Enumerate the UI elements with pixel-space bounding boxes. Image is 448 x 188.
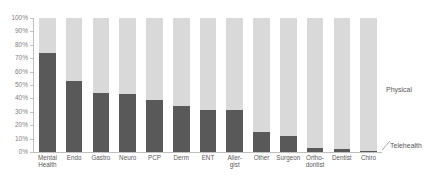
bar-slot [168, 18, 195, 152]
y-axis-tick-mark [30, 139, 33, 140]
bar-segment-telehealth [226, 110, 243, 152]
y-axis-tick-label: 100% [0, 15, 28, 22]
bar-slot [248, 18, 275, 152]
y-axis-tick-mark [30, 45, 33, 46]
bar-segment-physical [226, 18, 243, 110]
stacked-bar [93, 18, 110, 152]
bar-slot [61, 18, 88, 152]
bar-slot [355, 18, 382, 152]
y-axis-tick-label: 10% [0, 135, 28, 142]
stacked-bar [360, 18, 377, 152]
x-axis-tick-label: PCP [141, 154, 168, 184]
bar-segment-physical [307, 18, 324, 148]
bar-segment-telehealth [146, 100, 163, 152]
bar-slot [302, 18, 329, 152]
stacked-bar [39, 18, 56, 152]
x-axis-labels: MentalHealthEndoGastroNeuroPCPDermENTAll… [34, 154, 382, 184]
x-axis-tick-label: Neuro [114, 154, 141, 184]
stacked-bar [146, 18, 163, 152]
bar-slot [114, 18, 141, 152]
y-axis-tick-label: 0% [0, 149, 28, 156]
y-axis-tick-label: 90% [0, 28, 28, 35]
y-axis-labels: 0%10%20%30%40%50%60%70%80%90%100% [0, 0, 31, 152]
bar-segment-telehealth [173, 106, 190, 152]
bar-segment-telehealth [66, 81, 83, 152]
bar-segment-physical [253, 18, 270, 132]
stacked-bar [280, 18, 297, 152]
bar-slot [328, 18, 355, 152]
stacked-bar [200, 18, 217, 152]
y-axis-tick-label: 80% [0, 42, 28, 49]
x-axis-line [33, 152, 382, 153]
x-axis-tick-label: Dentist [328, 154, 355, 184]
x-axis-tick-label: Gastro [88, 154, 115, 184]
x-axis-tick-label: Aller-gist [221, 154, 248, 184]
bar-segment-telehealth [307, 148, 324, 152]
bar-segment-physical [360, 18, 377, 151]
y-axis-tick-label: 70% [0, 55, 28, 62]
stacked-bar [119, 18, 136, 152]
x-axis-tick-label: Ortho-dontist [302, 154, 329, 184]
x-axis-tick-label: Endo [61, 154, 88, 184]
bar-segment-physical [39, 18, 56, 53]
bar-segment-telehealth [360, 151, 377, 152]
bar-segment-physical [66, 18, 83, 81]
bar-segment-telehealth [253, 132, 270, 152]
bar-segment-telehealth [93, 93, 110, 152]
y-axis-tick-mark [30, 112, 33, 113]
stacked-bar [307, 18, 324, 152]
bar-segment-telehealth [280, 136, 297, 152]
bar-slot [34, 18, 61, 152]
bar-segment-physical [146, 18, 163, 100]
x-axis-tick-label: MentalHealth [34, 154, 61, 184]
bar-segment-physical [280, 18, 297, 136]
y-axis-tick-label: 20% [0, 122, 28, 129]
x-axis-tick-label: Derm [168, 154, 195, 184]
bar-slot [88, 18, 115, 152]
y-axis-tick-mark [30, 85, 33, 86]
bar-slot [141, 18, 168, 152]
bar-slot [195, 18, 222, 152]
bar-segment-physical [334, 18, 351, 149]
x-axis-tick-label: Surgeon [275, 154, 302, 184]
y-axis-tick-mark [30, 31, 33, 32]
bar-segment-telehealth [119, 94, 136, 152]
y-axis-tick-mark [30, 98, 33, 99]
x-axis-tick-label: ENT [195, 154, 222, 184]
y-axis-tick-label: 40% [0, 95, 28, 102]
stacked-bar [66, 18, 83, 152]
x-axis-tick-label: Chiro [355, 154, 382, 184]
series-label-telehealth: Telehealth [390, 142, 422, 149]
y-axis-tick-label: 50% [0, 82, 28, 89]
bar-segment-telehealth [39, 53, 56, 152]
stacked-bar [334, 18, 351, 152]
bar-segment-physical [200, 18, 217, 110]
bar-segment-physical [93, 18, 110, 93]
bar-slot [221, 18, 248, 152]
y-axis-tick-mark [30, 18, 33, 19]
stacked-bar [226, 18, 243, 152]
y-axis-tick-mark [30, 72, 33, 73]
series-label-physical: Physical [386, 86, 412, 93]
bar-segment-physical [119, 18, 136, 94]
stacked-bar-chart: 0%10%20%30%40%50%60%70%80%90%100% Mental… [0, 0, 448, 188]
y-axis-tick-mark [30, 125, 33, 126]
bar-slot [275, 18, 302, 152]
bar-series-container [34, 18, 382, 152]
bar-segment-telehealth [200, 110, 217, 152]
y-axis-tick-label: 30% [0, 109, 28, 116]
x-axis-tick-label: Other [248, 154, 275, 184]
y-axis-tick-mark [30, 58, 33, 59]
bar-segment-telehealth [334, 149, 351, 152]
stacked-bar [173, 18, 190, 152]
stacked-bar [253, 18, 270, 152]
bar-segment-physical [173, 18, 190, 106]
y-axis-tick-label: 60% [0, 68, 28, 75]
